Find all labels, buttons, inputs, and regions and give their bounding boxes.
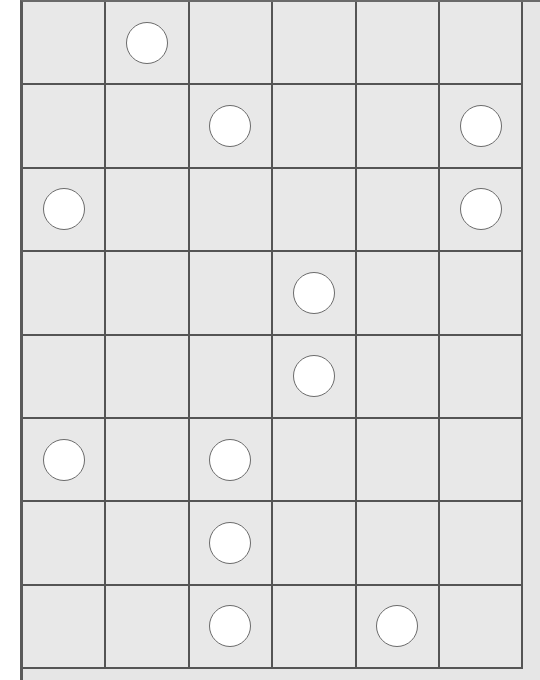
board-cell-r0-c3[interactable] — [273, 2, 356, 85]
white-circle-piece[interactable] — [293, 272, 335, 314]
board-cell-r3-c2[interactable] — [190, 252, 273, 335]
board-cell-r1-c3[interactable] — [273, 85, 356, 168]
board-cell-r4-c3[interactable] — [273, 336, 356, 419]
board-cell-r0-c1[interactable] — [106, 2, 189, 85]
board-cell-r2-c3[interactable] — [273, 169, 356, 252]
white-circle-piece[interactable] — [293, 355, 335, 397]
board-cell-r2-c0[interactable] — [23, 169, 106, 252]
board-cell-r7-c3[interactable] — [273, 586, 356, 669]
board-cell-r3-c1[interactable] — [106, 252, 189, 335]
white-circle-piece[interactable] — [126, 22, 168, 64]
white-circle-piece[interactable] — [460, 105, 502, 147]
white-circle-piece[interactable] — [209, 522, 251, 564]
board-cell-r4-c5[interactable] — [440, 336, 523, 419]
board-cell-r6-c1[interactable] — [106, 502, 189, 585]
board-cell-r7-c2[interactable] — [190, 586, 273, 669]
board-cell-r2-c4[interactable] — [357, 169, 440, 252]
board-cell-r1-c2[interactable] — [190, 85, 273, 168]
board-cell-r7-c4[interactable] — [357, 586, 440, 669]
board-cell-r1-c5[interactable] — [440, 85, 523, 168]
board-cell-r3-c5[interactable] — [440, 252, 523, 335]
board-cell-r2-c2[interactable] — [190, 169, 273, 252]
board-cell-r2-c1[interactable] — [106, 169, 189, 252]
board-cell-r6-c4[interactable] — [357, 502, 440, 585]
board-cell-r4-c1[interactable] — [106, 336, 189, 419]
board-cell-r7-c0[interactable] — [23, 586, 106, 669]
board-cell-r5-c2[interactable] — [190, 419, 273, 502]
board-cell-r6-c3[interactable] — [273, 502, 356, 585]
board-cell-r5-c3[interactable] — [273, 419, 356, 502]
board-cell-r6-c2[interactable] — [190, 502, 273, 585]
white-circle-piece[interactable] — [209, 439, 251, 481]
board-cell-r4-c0[interactable] — [23, 336, 106, 419]
board-cell-r5-c1[interactable] — [106, 419, 189, 502]
board-cell-r0-c4[interactable] — [357, 2, 440, 85]
white-circle-piece[interactable] — [209, 105, 251, 147]
board-cell-r4-c4[interactable] — [357, 336, 440, 419]
board-cell-r5-c4[interactable] — [357, 419, 440, 502]
white-circle-piece[interactable] — [460, 188, 502, 230]
board-cell-r7-c1[interactable] — [106, 586, 189, 669]
board-cell-r1-c1[interactable] — [106, 85, 189, 168]
white-circle-piece[interactable] — [43, 188, 85, 230]
board-cell-r5-c5[interactable] — [440, 419, 523, 502]
board-cell-r2-c5[interactable] — [440, 169, 523, 252]
white-circle-piece[interactable] — [209, 605, 251, 647]
board-cell-r6-c5[interactable] — [440, 502, 523, 585]
white-circle-piece[interactable] — [376, 605, 418, 647]
board-cell-r6-c0[interactable] — [23, 502, 106, 585]
game-board — [20, 0, 540, 680]
board-cell-r0-c5[interactable] — [440, 2, 523, 85]
board-cell-r5-c0[interactable] — [23, 419, 106, 502]
board-cell-r1-c4[interactable] — [357, 85, 440, 168]
board-cell-r3-c3[interactable] — [273, 252, 356, 335]
board-cell-r7-c5[interactable] — [440, 586, 523, 669]
white-circle-piece[interactable] — [43, 439, 85, 481]
board-cell-r4-c2[interactable] — [190, 336, 273, 419]
board-cell-r3-c0[interactable] — [23, 252, 106, 335]
board-cell-r0-c2[interactable] — [190, 2, 273, 85]
board-cell-r1-c0[interactable] — [23, 85, 106, 168]
board-cell-r0-c0[interactable] — [23, 2, 106, 85]
board-cell-r3-c4[interactable] — [357, 252, 440, 335]
